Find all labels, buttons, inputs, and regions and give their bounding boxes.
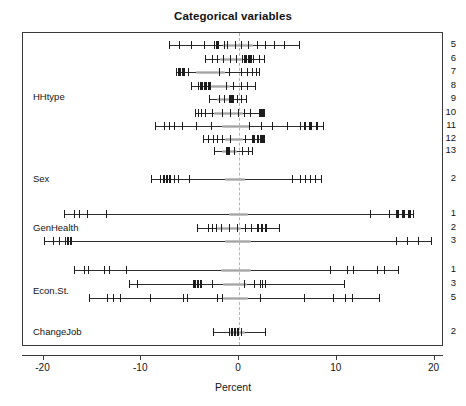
- data-tick-dense: [316, 122, 318, 130]
- x-axis-tick: [434, 355, 435, 360]
- grey-density-band: [229, 213, 248, 216]
- level-label-hhtype-8: 8: [451, 79, 456, 90]
- data-tick: [169, 122, 170, 130]
- data-tick: [222, 135, 223, 143]
- data-tick: [259, 55, 260, 63]
- data-tick: [237, 224, 238, 232]
- data-tick: [223, 55, 224, 63]
- data-tick: [155, 122, 156, 130]
- data-tick: [353, 266, 354, 274]
- data-tick: [202, 82, 203, 90]
- level-label-econ-st--5: 5: [451, 291, 456, 302]
- x-axis-title: Percent: [0, 381, 466, 393]
- data-tick: [191, 41, 192, 49]
- data-tick: [213, 135, 214, 143]
- chart-title: Categorical variables: [0, 10, 466, 22]
- data-tick: [205, 55, 206, 63]
- level-label-hhtype-7: 7: [451, 65, 456, 76]
- data-tick: [305, 175, 306, 183]
- data-tick: [246, 55, 247, 63]
- x-axis-tick-label: -10: [133, 362, 147, 373]
- data-tick: [137, 280, 138, 288]
- level-label-econ-st--3: 3: [451, 277, 456, 288]
- data-tick: [209, 95, 210, 103]
- data-tick: [201, 109, 202, 117]
- data-tick: [265, 41, 266, 49]
- data-tick: [89, 294, 90, 302]
- data-tick: [174, 175, 175, 183]
- data-tick-dense: [265, 224, 267, 232]
- data-tick: [188, 68, 189, 76]
- data-tick: [212, 55, 213, 63]
- data-tick: [205, 109, 206, 117]
- data-tick: [246, 95, 247, 103]
- data-tick: [179, 41, 180, 49]
- data-tick: [262, 280, 263, 288]
- data-tick: [248, 41, 249, 49]
- data-tick: [227, 41, 228, 49]
- grey-density-band: [225, 240, 250, 243]
- data-tick: [74, 210, 75, 218]
- data-tick-dense: [232, 95, 234, 103]
- data-tick: [352, 294, 353, 302]
- data-tick: [230, 135, 231, 143]
- data-tick: [208, 135, 209, 143]
- data-tick: [264, 55, 265, 63]
- data-tick: [247, 82, 248, 90]
- data-tick-dense: [261, 224, 263, 232]
- data-tick-dense: [169, 175, 171, 183]
- x-axis-tick-label: -20: [35, 362, 49, 373]
- data-tick: [87, 210, 88, 218]
- level-label-genhealth-3: 3: [451, 234, 456, 245]
- level-label-sex-2: 2: [451, 172, 456, 183]
- data-tick-dense: [197, 280, 199, 288]
- data-tick: [396, 237, 397, 245]
- data-tick: [65, 237, 66, 245]
- data-tick: [216, 224, 217, 232]
- data-tick: [44, 237, 45, 245]
- grey-density-band: [225, 138, 243, 141]
- data-tick-dense: [231, 328, 233, 336]
- data-tick: [304, 294, 305, 302]
- data-tick: [229, 328, 230, 336]
- x-axis-line: [22, 355, 443, 356]
- data-tick: [74, 266, 75, 274]
- level-label-hhtype-10: 10: [445, 106, 456, 117]
- x-axis-tick: [43, 355, 44, 360]
- data-tick: [265, 280, 266, 288]
- data-tick: [211, 122, 212, 130]
- data-tick-dense: [234, 328, 236, 336]
- plot-area: HHtypeSexGenHealthEcon.St.ChangeJob: [22, 32, 443, 346]
- data-tick-dense: [163, 175, 165, 183]
- data-tick: [178, 175, 179, 183]
- grey-density-band: [223, 297, 247, 300]
- data-tick-dense: [261, 135, 263, 143]
- data-tick: [310, 175, 311, 183]
- data-tick-dense: [304, 122, 306, 130]
- data-tick: [64, 210, 65, 218]
- data-tick: [235, 41, 236, 49]
- data-tick: [151, 175, 152, 183]
- x-axis-tick-label: 20: [428, 362, 439, 373]
- data-tick: [59, 237, 60, 245]
- data-tick: [229, 68, 230, 76]
- data-tick: [377, 266, 378, 274]
- data-tick: [210, 82, 211, 90]
- data-tick-dense: [204, 82, 206, 90]
- data-tick: [169, 41, 170, 49]
- data-tick: [109, 266, 110, 274]
- data-tick: [300, 122, 301, 130]
- data-tick: [53, 237, 54, 245]
- data-tick: [245, 224, 246, 232]
- group-label-genhealth: GenHealth: [33, 222, 78, 233]
- data-tick: [241, 82, 242, 90]
- data-tick-dense: [182, 68, 184, 76]
- data-tick: [272, 122, 273, 130]
- data-tick: [222, 294, 223, 302]
- data-tick: [413, 210, 414, 218]
- data-tick: [241, 41, 242, 49]
- data-tick: [126, 266, 127, 274]
- data-tick: [224, 95, 225, 103]
- level-label-changejob-2: 2: [451, 325, 456, 336]
- data-tick: [259, 68, 260, 76]
